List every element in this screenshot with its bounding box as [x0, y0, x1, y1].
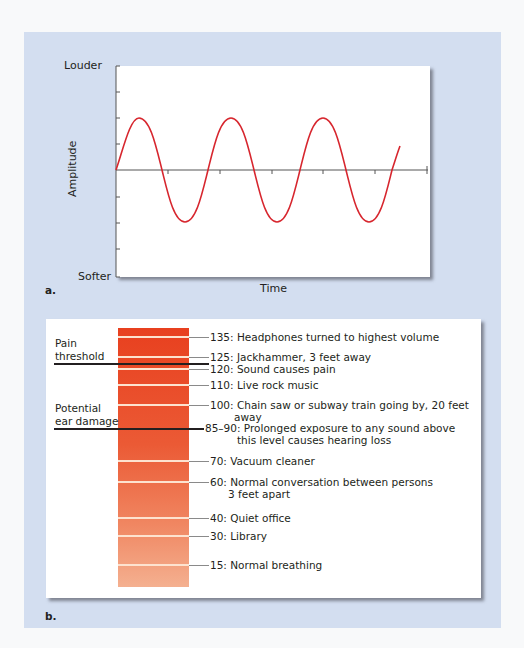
- panel-b-tag: b.: [45, 610, 57, 622]
- level-40: 40: Quiet office: [210, 512, 291, 524]
- ear-damage-label: Potentialear damage: [55, 402, 118, 428]
- level-125: 125: Jackhammer, 3 feet away: [210, 351, 371, 363]
- y-bottom-label: Softer: [78, 270, 111, 283]
- sine-wave-chart: [116, 66, 430, 277]
- level-135: 135: Headphones turned to highest volume: [210, 331, 439, 343]
- pain-threshold-line: [54, 363, 209, 365]
- y-top-label: Louder: [64, 59, 102, 72]
- level-100: 100: Chain saw or subway train going by,…: [210, 399, 469, 423]
- x-axis-label: Time: [260, 282, 287, 295]
- level-85-90: 85–90: Prolonged exposure to any sound a…: [205, 422, 455, 446]
- waveform-plot: [116, 66, 430, 277]
- level-15: 15: Normal breathing: [210, 559, 322, 571]
- level-60: 60: Normal conversation between persons3…: [210, 476, 433, 500]
- level-70: 70: Vacuum cleaner: [210, 455, 315, 467]
- level-30: 30: Library: [210, 530, 267, 542]
- level-110: 110: Live rock music: [210, 379, 318, 391]
- y-axis-label: Amplitude: [66, 141, 79, 197]
- level-120: 120: Sound causes pain: [210, 363, 336, 375]
- panel-a-tag: a.: [45, 284, 56, 296]
- ear-damage-line: [54, 428, 204, 430]
- pain-threshold-label: Painthreshold: [55, 337, 104, 363]
- decibel-gradient-bar: [118, 328, 189, 587]
